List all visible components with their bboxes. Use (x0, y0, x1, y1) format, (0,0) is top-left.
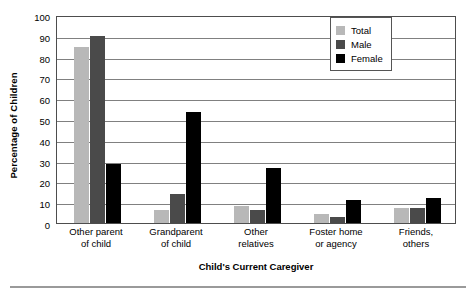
bar-female (426, 198, 441, 223)
x-tick-label-line: or agency (296, 238, 376, 250)
y-tick-label: 40 (39, 136, 50, 147)
bar-male (250, 210, 265, 223)
legend-item: Female (336, 51, 383, 65)
x-tick-label: Foster homeor agency (296, 226, 376, 250)
x-tick-label-line: Friends, (376, 226, 456, 238)
y-tick-label: 10 (39, 199, 50, 210)
bar-group (154, 17, 201, 223)
bar-male (410, 208, 425, 223)
bar-male (330, 217, 345, 223)
x-tick-label: Otherrelatives (216, 226, 296, 250)
y-axis-tick-labels: 0102030405060708090100 (22, 16, 54, 224)
y-tick-label: 90 (39, 32, 50, 43)
x-tick-label-line: others (376, 238, 456, 250)
x-tick-label-line: Foster home (296, 226, 376, 238)
y-tick-label: 100 (34, 12, 50, 23)
y-axis-title: Percentage of Children (2, 20, 24, 230)
legend-swatch-icon (336, 40, 345, 49)
y-tick-label: 50 (39, 116, 50, 127)
plot-area (56, 16, 456, 224)
x-tick-label-line: Other (216, 226, 296, 238)
x-axis-title-text: Child's Current Caregiver (199, 261, 314, 272)
y-tick-label: 70 (39, 74, 50, 85)
bar-female (186, 112, 201, 223)
legend-item: Male (336, 37, 383, 51)
chart-legend: TotalMaleFemale (330, 17, 392, 71)
legend-item: Total (336, 23, 383, 37)
bar-female (346, 200, 361, 223)
legend-swatch-icon (336, 54, 345, 63)
chart-figure: Percentage of Children 01020304050607080… (0, 0, 474, 297)
bar-groups (57, 17, 455, 223)
bottom-divider (10, 286, 466, 288)
x-tick-label-line: Grandparent (136, 226, 216, 238)
y-axis-title-text: Percentage of Children (8, 72, 19, 178)
x-tick-label-line: relatives (216, 238, 296, 250)
bar-group (394, 17, 441, 223)
y-tick-label: 0 (45, 220, 50, 231)
x-tick-label: Other parentof child (56, 226, 136, 250)
x-tick-label-line: of child (136, 238, 216, 250)
bar-male (90, 36, 105, 223)
bar-group (234, 17, 281, 223)
legend-label: Female (351, 53, 383, 64)
y-tick-label: 30 (39, 157, 50, 168)
bar-group (74, 17, 121, 223)
x-tick-label: Friends,others (376, 226, 456, 250)
y-tick-label: 80 (39, 53, 50, 64)
x-tick-label-line: of child (56, 238, 136, 250)
x-tick-label: Grandparentof child (136, 226, 216, 250)
bar-female (266, 168, 281, 223)
legend-swatch-icon (336, 26, 345, 35)
x-axis-title: Child's Current Caregiver (56, 261, 456, 272)
y-tick-label: 20 (39, 178, 50, 189)
bar-female (106, 164, 121, 223)
y-tick-label: 60 (39, 95, 50, 106)
bar-male (170, 194, 185, 223)
legend-label: Total (351, 25, 371, 36)
bar-total (154, 210, 169, 223)
legend-label: Male (351, 39, 372, 50)
x-axis-tick-labels: Other parentof childGrandparentof childO… (56, 226, 456, 260)
bar-total (74, 47, 89, 223)
x-tick-label-line: Other parent (56, 226, 136, 238)
bar-total (394, 208, 409, 223)
bar-total (234, 206, 249, 223)
bar-total (314, 214, 329, 223)
